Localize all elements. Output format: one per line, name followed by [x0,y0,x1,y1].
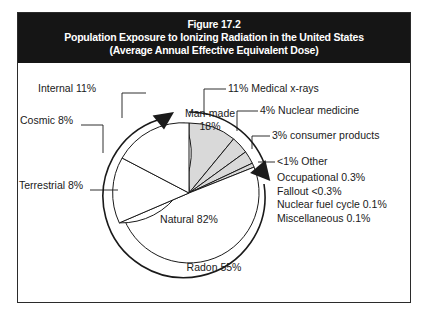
label-terrestrial: Terrestrial 8% [19,179,83,191]
label-other: <1% Other [277,155,328,167]
figure-title-bar: Figure 17.2 Population Exposure to Ioniz… [18,13,410,63]
label-miscellaneous: Miscellaneous 0.1% [277,212,387,226]
label-manmade-ring-line1: Man-made [175,107,245,119]
label-manmade-ring-line2: 18% [175,120,245,132]
figure-number: Figure 17.2 [24,18,404,31]
label-consumer-products: 3% consumer products [272,129,379,141]
label-nuclear-fuel-cycle: Nuclear fuel cycle 0.1% [277,198,387,212]
label-natural-ring: Natural 82% [144,213,234,225]
label-cosmic: Cosmic 8% [20,114,73,126]
figure-title-line-2: (Average Annual Effective Equivalent Dos… [24,44,404,57]
label-fallout: Fallout <0.3% [277,185,387,199]
label-radon: Radon 55% [169,261,259,273]
other-breakdown-list: Occupational 0.3% Fallout <0.3% Nuclear … [277,171,387,225]
label-nuclear-medicine: 4% Nuclear medicine [260,104,359,116]
pie-slices [113,123,259,263]
pie-chart-plot-area: Internal 11% Cosmic 8% Terrestrial 8% Na… [18,63,410,281]
label-medical-x-rays: 11% Medical x-rays [228,82,319,94]
figure-title-line-1: Population Exposure to Ionizing Radiatio… [24,31,404,44]
figure-frame: Figure 17.2 Population Exposure to Ioniz… [17,12,411,303]
label-internal: Internal 11% [38,82,96,94]
label-occupational: Occupational 0.3% [277,171,387,185]
